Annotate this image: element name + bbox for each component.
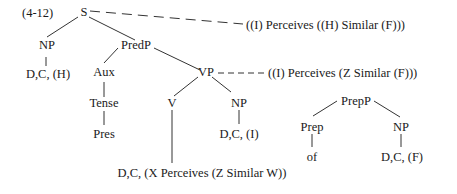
node-s: S xyxy=(81,5,88,19)
edge-predp-vp xyxy=(154,48,200,70)
annotation-vp-reading: ((I) Perceives (Z Similar (F))) xyxy=(268,66,417,80)
edge-s-np xyxy=(47,17,78,37)
node-prepp: PrepP xyxy=(341,94,371,108)
node-pres: Pres xyxy=(93,127,115,141)
node-d-prep: D,C, (F) xyxy=(381,150,423,164)
node-d-subject: D,C, (H) xyxy=(26,67,70,81)
node-v: V xyxy=(167,96,176,110)
node-prep: Prep xyxy=(301,120,324,134)
annotation-s-reading: ((I) Perceives ((H) Similar (F))) xyxy=(246,18,405,32)
edge-vp-np xyxy=(212,77,231,92)
node-predp: PredP xyxy=(121,38,151,52)
edge-predp-aux xyxy=(104,48,118,63)
node-v-gloss: D,C, (X Perceives (Z Similar W)) xyxy=(118,166,287,180)
node-np-prep: NP xyxy=(393,120,409,134)
edge-prepp-np xyxy=(374,101,400,117)
example-number: (4-12) xyxy=(22,6,53,20)
node-vp: VP xyxy=(198,65,214,79)
syntax-tree-diagram: (4-12) S ((I) Perceives ((H) Similar (F)… xyxy=(0,0,457,194)
edge-s-predp xyxy=(89,17,135,40)
edge-vp-v xyxy=(174,77,198,96)
node-np-subject: NP xyxy=(39,38,55,52)
node-of: of xyxy=(307,150,317,164)
edge-prepp-prep xyxy=(313,101,337,116)
node-aux: Aux xyxy=(93,65,115,79)
edge-s-reading xyxy=(90,11,243,24)
node-tense: Tense xyxy=(90,96,119,110)
node-np-object: NP xyxy=(231,96,247,110)
node-d-object: D,C, (I) xyxy=(219,127,258,141)
